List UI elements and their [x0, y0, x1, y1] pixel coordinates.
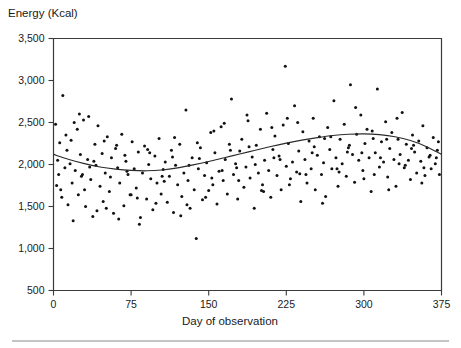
y-tick-label: 1,500 [18, 200, 44, 212]
scatter-point [234, 162, 237, 165]
scatter-point [66, 203, 69, 206]
scatter-point [404, 164, 407, 167]
scatter-point [151, 208, 154, 211]
scatter-point [164, 160, 167, 163]
scatter-point [263, 159, 266, 162]
scatter-point [104, 171, 107, 174]
x-tick-label: 0 [51, 298, 57, 310]
scatter-point [189, 207, 192, 210]
y-tick-label: 500 [27, 284, 45, 296]
scatter-point [235, 166, 238, 169]
scatter-point [204, 196, 207, 199]
scatter-point [174, 164, 177, 167]
scatter-point [72, 219, 75, 222]
scatter-point [420, 181, 423, 184]
scatter-point [102, 200, 105, 203]
scatter-point [74, 169, 77, 172]
scatter-point [127, 173, 130, 176]
scatter-point [70, 139, 73, 142]
scatter-point [384, 120, 387, 123]
scatter-point [99, 185, 102, 188]
scatter-point [160, 192, 163, 195]
scatter-point [130, 193, 133, 196]
scatter-point [328, 148, 331, 151]
scatter-point [91, 215, 94, 218]
scatter-point [437, 140, 440, 143]
scatter-point [303, 158, 306, 161]
scatter-point [131, 140, 134, 143]
scatter-point [201, 198, 204, 201]
scatter-point [249, 176, 252, 179]
scatter-point [324, 195, 327, 198]
scatter-point [435, 156, 438, 159]
x-axis-title-group: Day of observation [182, 315, 278, 327]
scatter-point [410, 147, 413, 150]
scatter-point [394, 185, 397, 188]
scatter-point [86, 158, 89, 161]
x-axis-ticks: 075150225300375 [51, 291, 451, 310]
scatter-point [79, 153, 82, 156]
scatter-point [419, 160, 422, 163]
scatter-point [92, 160, 95, 163]
scatter-point [421, 124, 424, 127]
scatter-point [311, 151, 314, 154]
scatter-point [93, 143, 96, 146]
scatter-point [223, 122, 226, 125]
scatter-point [120, 133, 123, 136]
scatter-point [222, 179, 225, 182]
scatter-point [378, 166, 381, 169]
scatter-point [305, 181, 308, 184]
scatter-point [238, 150, 241, 153]
scatter-point [330, 167, 333, 170]
scatter-point [289, 177, 292, 180]
scatter-point [136, 197, 139, 200]
scatter-point [363, 142, 366, 145]
scatter-point [185, 203, 188, 206]
scatter-point [89, 178, 92, 181]
y-axis-title-group: Energy (Kcal) [8, 7, 78, 19]
scatter-point [336, 167, 339, 170]
scatter-point [195, 237, 198, 240]
scatter-point [87, 115, 90, 118]
scatter-point [272, 156, 275, 159]
scatter-point [180, 195, 183, 198]
scatter-point [326, 126, 329, 129]
scatter-point [78, 113, 81, 116]
scatter-point [361, 169, 364, 172]
scatter-point [366, 128, 369, 131]
trend-curve [54, 134, 442, 171]
scatter-point [158, 137, 161, 140]
scatter-point [429, 154, 432, 157]
scatter-point [260, 189, 263, 192]
scatter-point [232, 173, 235, 176]
scatter-point [228, 143, 231, 146]
scatter-point [166, 201, 169, 204]
scatter-point [368, 156, 371, 159]
scatter-point [259, 128, 262, 131]
scatter-point [337, 185, 340, 188]
scatter-point [236, 197, 239, 200]
scatter-point [138, 223, 141, 226]
scatter-point [343, 123, 346, 126]
scatter-point [398, 162, 401, 165]
scatter-point [58, 141, 61, 144]
scatter-point [187, 179, 190, 182]
scatter-point [117, 218, 120, 221]
scatter-point [373, 173, 376, 176]
scatter-point [332, 99, 335, 102]
scatter-point [248, 145, 251, 148]
scatter-point [96, 124, 99, 127]
x-tick-label: 225 [278, 298, 296, 310]
scatter-point [298, 172, 301, 175]
y-tick-label: 1,000 [18, 242, 44, 254]
scatter-point [269, 196, 272, 199]
scatter-point [304, 173, 307, 176]
scatter-point [267, 169, 270, 172]
scatter-point [247, 119, 250, 122]
scatter-point [63, 166, 66, 169]
scatter-point [101, 152, 104, 155]
scatter-point [422, 166, 425, 169]
scatter-point [359, 113, 362, 116]
scatter-point [135, 187, 138, 190]
scatter-point [401, 111, 404, 114]
